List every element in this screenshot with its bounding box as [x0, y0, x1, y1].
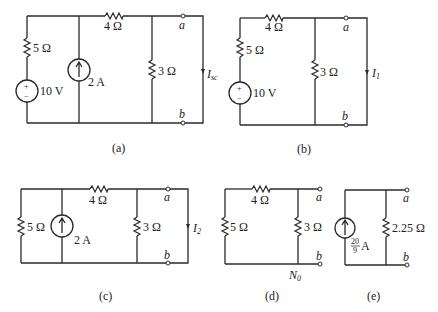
plus-sign: +: [24, 82, 29, 91]
label-b: b: [164, 248, 170, 262]
label-3ohm: 3 Ω: [320, 65, 338, 79]
caption-e: (e): [367, 289, 380, 303]
resistor-3ohm: [149, 60, 155, 79]
label-3ohm: 3 Ω: [158, 64, 176, 78]
label-b: b: [403, 250, 409, 264]
label-4ohm: 4 Ω: [265, 20, 283, 34]
arrow-down-icon: [201, 69, 205, 74]
wire: [185, 16, 203, 123]
label-n0: N0: [288, 268, 301, 283]
arrow-down-icon: [186, 224, 190, 229]
resistor-3ohm: [312, 60, 318, 79]
label-3ohm: 3 Ω: [304, 220, 322, 234]
label-i1: I1: [371, 66, 380, 81]
label-5ohm: 5 Ω: [246, 43, 264, 57]
caption-d: (d): [265, 289, 279, 303]
resistor-5ohm: [237, 38, 243, 57]
label-4ohm: 4 Ω: [251, 193, 269, 207]
arrow-up-icon: [76, 62, 82, 77]
label-b: b: [179, 107, 185, 121]
plus-sign: +: [237, 84, 242, 93]
terminal-b: [181, 121, 185, 125]
label-5ohm: 5 Ω: [33, 41, 51, 55]
label-i2: I2: [192, 221, 201, 236]
label-10v: 10 V: [253, 86, 277, 100]
label-isc: Isc: [206, 67, 218, 82]
resistor-4ohm: [90, 186, 108, 192]
terminal-b: [344, 123, 348, 127]
caption-a: (a): [112, 141, 125, 155]
panel-a: + − 5 Ω 10 V 2 A 4 Ω 3 Ω a b Isc (a): [16, 13, 218, 155]
label-a: a: [343, 20, 349, 34]
label-a: a: [316, 190, 322, 204]
panel-b: 4 Ω + − 5 Ω 10 V 3 Ω a b I1 (b): [229, 15, 380, 156]
label-fraction-num: 20: [351, 237, 359, 246]
label-4ohm: 4 Ω: [104, 19, 122, 33]
label-2a: 2 A: [74, 233, 91, 247]
caption-c: (c): [99, 289, 112, 303]
label-a: a: [403, 191, 409, 205]
resistor-3ohm: [134, 217, 140, 236]
arrow-down-icon: [365, 70, 369, 75]
panel-c: 5 Ω 2 A 4 Ω 3 Ω a b I2 (c): [18, 186, 201, 303]
panel-d: 4 Ω 5 Ω 3 Ω a b N0 (d): [222, 186, 322, 303]
label-5ohm: 5 Ω: [230, 220, 248, 234]
label-unit-a: A: [361, 239, 370, 253]
resistor-5ohm: [222, 217, 228, 236]
minus-sign: −: [24, 92, 29, 101]
arrow-up-icon: [342, 220, 348, 235]
resistor-3ohm: [295, 217, 301, 236]
caption-b: (b): [297, 142, 311, 156]
label-3ohm: 3 Ω: [143, 220, 161, 234]
label-a: a: [164, 190, 170, 204]
label-b: b: [342, 109, 348, 123]
panel-e: 20 9 A 2.25 Ω a b (e): [335, 188, 425, 303]
label-2a: 2 A: [88, 75, 105, 89]
label-5ohm: 5 Ω: [27, 220, 45, 234]
wire: [170, 189, 188, 263]
minus-sign: −: [237, 94, 242, 103]
label-b: b: [316, 249, 322, 263]
label-fraction-den: 9: [353, 246, 357, 255]
label-a: a: [179, 18, 185, 32]
wire: [348, 18, 367, 125]
resistor-5ohm: [18, 217, 24, 236]
label-10v: 10 V: [40, 84, 64, 98]
circuit-figure: + − 5 Ω 10 V 2 A 4 Ω 3 Ω a b Isc (a) 4 Ω: [0, 0, 438, 312]
resistor-2-25ohm: [383, 218, 389, 237]
label-4ohm: 4 Ω: [89, 193, 107, 207]
label-2-25ohm: 2.25 Ω: [392, 221, 425, 235]
resistor-4ohm: [252, 186, 270, 192]
resistor-5ohm: [24, 38, 30, 57]
arrow-up-icon: [59, 218, 65, 233]
